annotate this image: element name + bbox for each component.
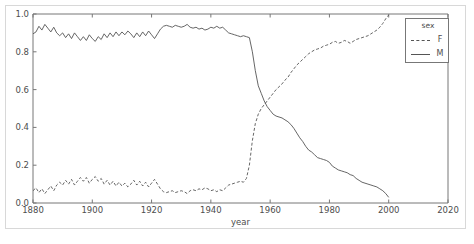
legend: sex F M (405, 18, 449, 63)
data-series (33, 15, 389, 197)
y-tick-label: 1.0 (0, 9, 29, 19)
x-tick-label: 1960 (250, 205, 290, 215)
legend-item-m: M (406, 48, 450, 62)
x-axis-title: year (191, 217, 291, 227)
legend-title: sex (406, 21, 450, 30)
legend-label-f: F (433, 35, 447, 44)
y-tick-label: 0.2 (0, 160, 29, 170)
legend-swatch-f (411, 40, 430, 42)
series-line-m (33, 24, 389, 197)
axis-lines (33, 14, 448, 203)
x-tick-label: 1940 (191, 205, 231, 215)
x-tick-label: 1880 (13, 205, 53, 215)
x-tick-label: 1900 (72, 205, 112, 215)
x-tick-label: 1980 (309, 205, 349, 215)
tick-marks (33, 14, 448, 203)
legend-label-m: M (433, 49, 447, 58)
y-tick-label: 0.8 (0, 47, 29, 57)
figure-canvas: 0.00.20.40.60.81.0 188019001920194019601… (0, 0, 474, 244)
x-tick-label: 2000 (369, 205, 409, 215)
legend-item-f: F (406, 34, 450, 48)
y-tick-label: 0.6 (0, 85, 29, 95)
y-tick-label: 0.4 (0, 122, 29, 132)
series-line-f (33, 15, 389, 194)
x-tick-label: 1920 (132, 205, 172, 215)
legend-swatch-m (411, 54, 430, 56)
x-tick-label: 2020 (428, 205, 468, 215)
